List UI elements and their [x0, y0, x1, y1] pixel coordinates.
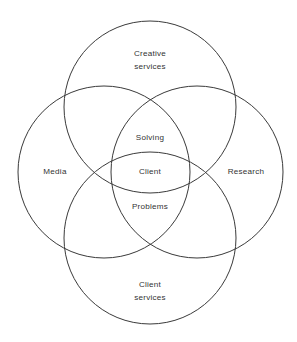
label-client-services-line2: services: [134, 293, 166, 302]
venn-diagram: Creative services Media Research Client …: [0, 0, 297, 342]
label-media: Media: [43, 167, 67, 176]
label-intersection-problems: Problems: [132, 202, 168, 211]
label-client-services-line1: Client: [139, 280, 162, 289]
label-intersection-solving: Solving: [136, 133, 164, 142]
venn-diagram-canvas: Creative services Media Research Client …: [0, 0, 297, 342]
label-creative-services-line2: services: [134, 62, 166, 71]
label-creative-services-line1: Creative: [134, 49, 166, 58]
label-research: Research: [228, 167, 265, 176]
label-intersection-client: Client: [139, 167, 162, 176]
